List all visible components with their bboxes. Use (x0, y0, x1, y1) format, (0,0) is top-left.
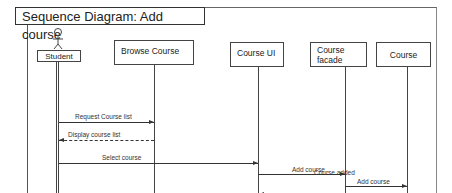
participant-label-line1: Course (317, 45, 366, 55)
participant-course-facade: Course facade (310, 42, 367, 67)
participant-browse-course: Browse Course (114, 40, 194, 65)
participant-student: Student (37, 50, 81, 62)
participant-course-ui: Course UI (230, 42, 284, 67)
participant-label: Course UI (237, 48, 275, 58)
participant-label: Student (45, 52, 73, 61)
message-label: Select course (102, 154, 141, 161)
lifeline-student (56, 62, 59, 193)
participant-label: Browse Course (121, 46, 179, 56)
message-label: Display course list (68, 131, 120, 138)
actor-stick-figure-icon (0, 0, 452, 193)
message-add-course-entity (345, 186, 407, 187)
message-request-course-list (59, 122, 154, 123)
message-label: Add course (357, 178, 390, 185)
participant-label-line2: facade (317, 55, 366, 65)
message-label: Request Course list (75, 113, 132, 120)
lifeline-course (407, 67, 408, 193)
participant-course: Course (376, 42, 431, 67)
participant-label: Course (390, 50, 417, 60)
message-label-course-added: Course added (314, 169, 355, 176)
message-display-course-list (59, 140, 154, 141)
message-select-course (59, 163, 258, 164)
lifeline-browse-course (154, 65, 155, 193)
